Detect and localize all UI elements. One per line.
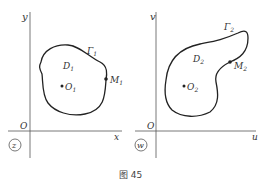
origin-label: O xyxy=(147,121,155,131)
y-axis-label: y xyxy=(21,11,28,22)
region-label-d2: D2 xyxy=(192,54,204,65)
point-label-m1: M1 xyxy=(109,75,123,86)
point-o1 xyxy=(61,85,64,88)
curve-label-gamma1: Γ1 xyxy=(86,46,97,57)
point-o2 xyxy=(183,85,186,88)
point-m1 xyxy=(104,77,108,81)
point-label-o2: O2 xyxy=(187,82,198,93)
point-label-m2: M2 xyxy=(233,61,247,72)
z-plane: y x O z Γ1 D1 O1 M1 xyxy=(8,11,123,158)
w-plane-badge-label: w xyxy=(137,141,144,150)
conformal-mapping-figure: y x O z Γ1 D1 O1 M1 v u O w Γ2 D2 O2 M2 … xyxy=(0,0,263,185)
v-axis-label: v xyxy=(150,11,156,22)
point-label-o1: O1 xyxy=(65,82,76,93)
x-axis-label: x xyxy=(114,132,119,142)
region-label-d1: D1 xyxy=(62,61,74,72)
u-axis-label: u xyxy=(252,132,258,142)
curve-label-gamma2: Γ2 xyxy=(223,22,234,33)
curve-gamma2 xyxy=(165,31,248,116)
w-plane: v u O w Γ2 D2 O2 M2 xyxy=(135,11,258,158)
z-plane-badge-label: z xyxy=(11,141,17,150)
figure-caption: 图 45 xyxy=(119,170,142,180)
point-m2 xyxy=(228,60,232,64)
origin-label: O xyxy=(20,121,28,131)
